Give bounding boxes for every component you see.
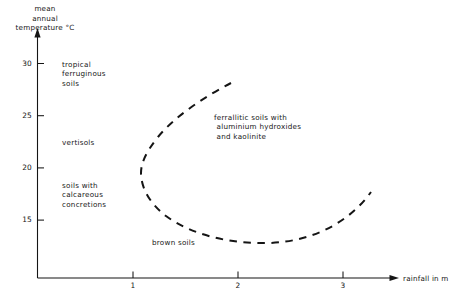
ferrallitic-boundary-path	[141, 83, 371, 243]
label-ferrallitic-soils: ferrallitic soils with aluminium hydroxi…	[214, 113, 301, 141]
label-vertisols: vertisols	[62, 138, 95, 147]
y-tick-label-20: 20	[14, 163, 32, 172]
plot-area	[0, 0, 455, 296]
y-tick-label-30: 30	[14, 59, 32, 68]
label-tropical-ferruginous-soils: tropical ferruginous soils	[62, 60, 106, 88]
figure-canvas: mean annual temperature °C rainfall in m…	[0, 0, 455, 296]
soil-boundary-curve	[141, 83, 371, 243]
x-tick-label-1: 1	[125, 281, 141, 290]
label-brown-soils: brown soils	[152, 238, 195, 247]
x-axis-title: rainfall in m	[403, 274, 453, 284]
x-axis-arrowhead	[390, 275, 400, 281]
y-axis-title: mean annual temperature °C	[4, 4, 86, 33]
x-tick-label-2: 2	[230, 281, 246, 290]
label-soils-with-calcareous-concretions: soils with calcareous concretions	[62, 181, 106, 209]
y-tick-label-25: 25	[14, 111, 32, 120]
x-axis-ticks	[133, 272, 343, 279]
y-axis-ticks	[38, 64, 45, 221]
y-tick-label-15: 15	[14, 215, 32, 224]
x-tick-label-3: 3	[335, 281, 351, 290]
